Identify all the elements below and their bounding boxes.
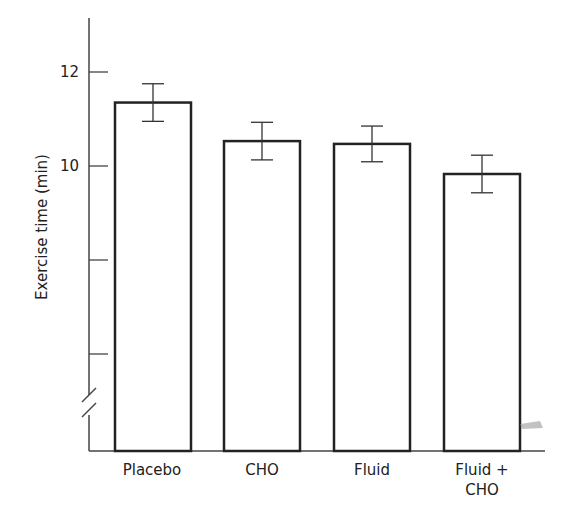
y-ticks — [89, 72, 108, 354]
x-label-fluid-cho: Fluid + CHO — [432, 460, 532, 500]
x-label-fluid-cho-line2: CHO — [432, 480, 532, 500]
bar-chart — [0, 0, 570, 526]
x-label-fluid-cho-line1: Fluid + — [432, 460, 532, 480]
y-tick-label-10: 10 — [39, 157, 79, 175]
x-label-cho: CHO — [212, 460, 312, 480]
y-tick-label-12: 12 — [39, 63, 79, 81]
x-label-placebo: Placebo — [102, 460, 202, 480]
x-label-fluid: Fluid — [322, 460, 422, 480]
scan-artifact — [520, 421, 543, 429]
bar — [334, 144, 410, 451]
bar — [224, 141, 300, 451]
axis-break-mark — [82, 403, 96, 417]
bar — [444, 174, 520, 451]
bar — [115, 103, 191, 451]
bars — [115, 103, 520, 451]
error-bars — [142, 84, 493, 193]
